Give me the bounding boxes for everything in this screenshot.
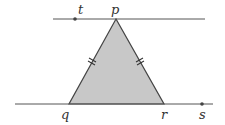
label-t: t <box>78 3 83 16</box>
geometry-diagram: t p q r s <box>0 0 225 125</box>
triangle-pqr <box>69 19 164 104</box>
label-r: r <box>161 108 167 121</box>
label-q: q <box>61 108 69 121</box>
point-s-dot <box>200 102 204 106</box>
diagram-canvas <box>0 0 225 125</box>
label-p: p <box>111 3 119 16</box>
point-t-dot <box>73 17 77 21</box>
label-s: s <box>199 108 206 121</box>
